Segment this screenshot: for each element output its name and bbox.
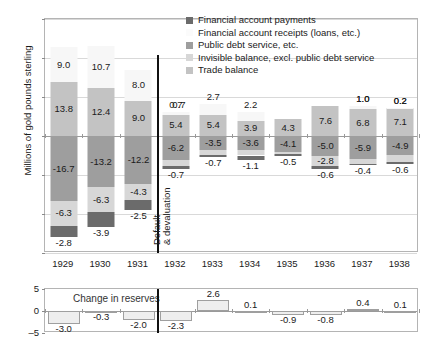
legend-item-4: Trade balance [186,64,374,77]
legend-label-1: Financial account receipts (loans, etc.) [198,28,360,38]
legend-swatch-icon-4 [186,67,193,74]
bar-value-label-financial-payments-1937: -0.4 [343,166,383,176]
reserves-value-label-1938: 0.1 [380,300,420,310]
bar-segment-receipts-1938 [387,108,414,109]
bar-value-label-public-debt-1938: -4.9 [387,141,414,151]
legend-swatch-icon-3 [186,54,193,61]
bar-segment-trade-1938: 7.1 [387,108,414,136]
legend-label-3: Invisible balance, excl. public debt ser… [198,53,374,63]
bar-value-label-receipts-1931: 8.0 [125,80,152,90]
bar-segment-receipts-1929: 9.0 [50,47,77,82]
bar-value-label-financial-payments-1935: -0.5 [268,157,308,167]
bar-segment-trade-1937: 6.8 [349,109,376,136]
x-axis-year-1932: 1932 [155,258,195,270]
bar-value-label-trade-1932: 5.4 [162,120,189,130]
x-axis-year-1936: 1936 [305,258,345,270]
bar-value-label-invisible-balance-1931: -4.3 [125,187,152,197]
bar-value-label-trade-1935: 4.3 [275,123,302,133]
bar-value-label-financial-payments-1932: -0.7 [156,170,196,180]
bar-value-label-receipts-1929: 9.0 [50,60,77,70]
x-axis-year-1930: 1930 [80,258,120,270]
bar-segment-public-debt-1929: -16.7 [50,136,77,201]
y-axis-title: Millions of gold pounds sterling [22,36,33,186]
bar-segment-financial-payments-1931 [125,200,152,210]
bar-value-label-public-debt-1933: -3.5 [200,138,227,148]
bar-value-label-receipts-1930: 10.7 [88,62,115,72]
legend-item-1: Financial account receipts (loans, etc.) [186,27,374,40]
x-axis-year-1937: 1937 [342,258,382,270]
x-tick-mark [419,134,420,138]
bar-segment-public-debt-1938: -4.9 [387,136,414,155]
bar-group-1929: 13.89.0-16.7-6.3-2.8 [45,19,82,251]
bar-value-label-financial-payments-1933: -0.7 [193,158,233,168]
reserves-x-tick-mark [344,309,345,313]
bar-segment-public-debt-1932: -6.2 [162,136,189,160]
bar-value-label-financial-payments-1938: -0.6 [380,165,420,175]
x-axis-year-1933: 1933 [192,258,232,270]
bar-segment-invisible-balance-1931: -4.3 [125,184,152,201]
y-tick-mark [42,253,45,254]
reserves-value-label-1929: -3.0 [44,324,84,334]
bar-value-label-trade-1934: 3.9 [237,123,264,133]
reserves-bar-1934 [235,311,267,313]
bar-value-label-receipts-1933: 2.7 [193,92,233,102]
bar-value-label-financial-payments-1936: -0.6 [305,170,345,180]
reserves-default-divider [157,289,159,333]
bar-segment-receipts-1934 [237,112,264,121]
legend-label-0: Financial account payments [198,15,316,25]
reserves-x-tick-mark [419,309,420,313]
bar-segment-public-debt-1936: -5.0 [312,136,339,156]
reserves-plot-area: Change in reserves 50–5-3.0-0.3-2.0-2.32… [44,288,418,332]
legend-label-2: Public debt service, etc. [198,40,298,50]
reserves-x-tick-mark [232,309,233,313]
reserves-value-label-1935: -0.9 [268,315,308,325]
reserves-bar-1937 [347,309,379,311]
reserves-y-tick-label: 0 [13,306,39,315]
bar-value-label-receipts-1938: 0.2 [380,96,420,106]
reserves-panel-title: Change in reserves [73,293,160,304]
bar-value-label-invisible-balance-1936: -2.8 [312,156,339,166]
bar-value-label-invisible-balance-1929: -6.3 [50,208,77,218]
reserves-x-tick-mark [382,309,383,313]
bar-segment-trade-1931: 9.0 [125,101,152,136]
chart-root: Millions of gold pounds sterling 3020100… [0,0,422,343]
legend-swatch-icon-1 [186,29,193,36]
bar-segment-financial-payments-1929 [50,226,77,237]
bar-segment-public-debt-1930: -13.2 [88,136,115,187]
reserves-x-tick-mark [195,309,196,313]
bar-value-label-invisible-balance-1930: -6.3 [88,195,115,205]
bar-value-label-trade-1933: 5.4 [200,120,227,130]
bar-segment-public-debt-1934: -3.6 [237,136,264,150]
bar-value-label-trade-1937: 6.8 [349,118,376,128]
x-axis-year-1935: 1935 [267,258,307,270]
reserves-bar-1933 [197,300,229,311]
reserves-value-label-1937: 0.4 [343,298,383,308]
bar-value-label-trade-1931: 9.0 [125,113,152,123]
bar-value-label-public-debt-1936: -5.0 [312,141,339,151]
bar-value-label-financial-payments-1929: -2.8 [44,238,84,248]
bar-value-label-trade-1936: 7.6 [312,116,339,126]
default-annotation-line2: & devaluation [161,187,172,245]
bar-segment-invisible-balance-1929: -6.3 [50,201,77,226]
reserves-value-label-1931: -2.0 [119,320,159,330]
bar-segment-receipts-1932 [162,112,189,115]
bar-segment-trade-1934: 3.9 [237,121,264,136]
reserves-x-tick-mark [307,309,308,313]
x-axis-year-1929: 1929 [43,258,83,270]
reserves-value-label-1933: 2.6 [193,289,233,299]
bar-value-label-public-debt-1930: -13.2 [88,157,115,167]
reserves-x-tick-mark [269,309,270,313]
bar-segment-public-debt-1933: -3.5 [200,136,227,150]
reserves-x-tick-mark [45,309,46,313]
legend-swatch-icon-2 [186,42,193,49]
reserves-value-label-1936: -0.8 [306,315,346,325]
bar-segment-trade-1932: 5.4 [162,115,189,136]
bar-segment-receipts-1937 [349,106,376,110]
bar-value-label-public-debt-1935: -4.1 [275,139,302,149]
legend-swatch-icon-0 [186,17,193,24]
bar-value-label-public-debt-1937: -5.9 [349,143,376,153]
x-axis-year-1931: 1931 [118,258,158,270]
bar-segment-trade-1929: 13.8 [50,82,77,136]
reserves-value-label-1930: -0.3 [81,312,121,322]
bar-segment-trade-1930: 12.4 [88,88,115,136]
